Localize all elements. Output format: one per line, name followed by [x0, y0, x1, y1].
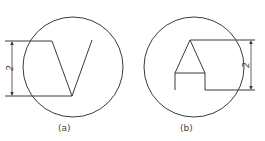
panel-b: 2 (b) [144, 17, 255, 133]
a-right-slope [190, 40, 205, 73]
circle-a [23, 17, 123, 117]
circle-b [144, 17, 244, 117]
figure-canvas: 2 (a) 2 (b) [0, 0, 265, 141]
v-right-arm [72, 40, 92, 96]
caption-a: (a) [58, 123, 71, 133]
dimension-label-b: 2 [241, 62, 251, 68]
panel-a: 2 (a) [5, 17, 123, 133]
v-left-arm [52, 41, 72, 96]
dimension-label-a: 2 [5, 65, 15, 71]
a-left-slope [175, 40, 190, 73]
caption-b: (b) [180, 123, 193, 133]
